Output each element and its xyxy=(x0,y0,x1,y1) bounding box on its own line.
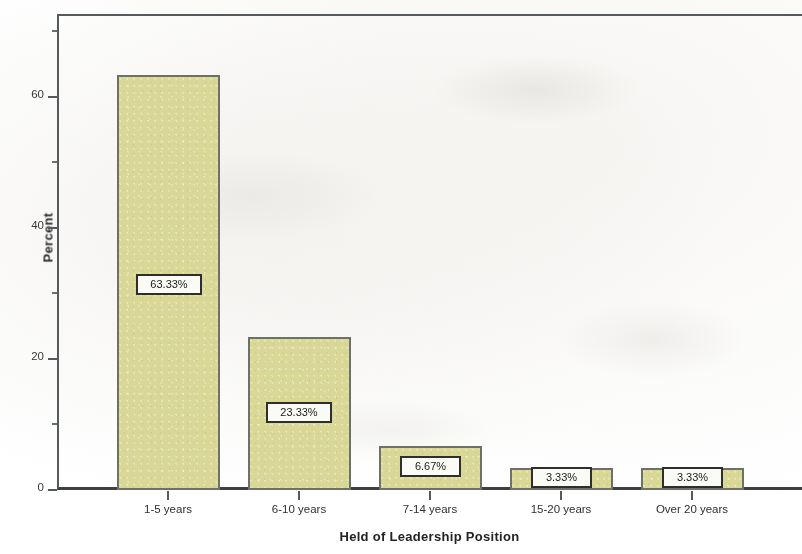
y-axis-title: Percent xyxy=(41,178,56,298)
bar-data-label: 6.67% xyxy=(400,456,461,477)
bar-data-label: 3.33% xyxy=(662,467,723,488)
y-axis-tick-label: 20 xyxy=(31,350,44,362)
x-axis-tick-label: Over 20 years xyxy=(612,503,772,515)
y-axis-tick-label: 0 xyxy=(38,481,44,493)
x-axis-title: Held of Leadership Position xyxy=(57,529,802,544)
bar-chart-figure: Percent 60 40 20 0 63.33% 23.33% 6.67% 3… xyxy=(0,0,802,554)
x-axis-tick-mark xyxy=(429,491,431,500)
x-axis-tick-mark xyxy=(167,491,169,500)
y-axis-tick-mark xyxy=(48,227,57,229)
y-axis-tick-mark xyxy=(48,358,57,360)
x-axis-tick-mark xyxy=(298,491,300,500)
bar-data-label: 63.33% xyxy=(136,274,202,295)
y-axis-tick-label: 60 xyxy=(31,88,44,100)
y-axis-tick-label: 40 xyxy=(31,219,44,231)
y-axis-tick-mark xyxy=(48,489,57,491)
y-axis-tick-mark xyxy=(48,96,57,98)
bar-data-label: 23.33% xyxy=(266,402,332,423)
x-axis-tick-mark xyxy=(691,491,693,500)
bar-data-label: 3.33% xyxy=(531,467,592,488)
x-axis-tick-mark xyxy=(560,491,562,500)
